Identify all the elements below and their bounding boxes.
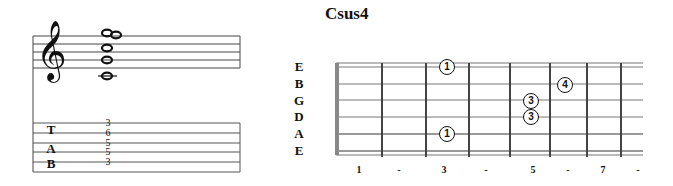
string-label-low-e: E <box>292 144 306 157</box>
chord-title: Csus4 <box>325 4 368 24</box>
chord-diagram-graphics <box>0 0 673 186</box>
finger-dot-b-fret6: 4 <box>557 77 573 93</box>
tab-letter-b: B <box>44 157 58 170</box>
tab-letter-a: A <box>44 142 58 155</box>
string-label-g: G <box>292 94 306 107</box>
finger-dot-g-fret5: 3 <box>523 93 539 109</box>
string-label-b: B <box>292 77 306 90</box>
tab-letter-t: T <box>44 123 58 136</box>
string-label-high-e: E <box>292 60 306 73</box>
finger-dot-e-fret3: 1 <box>439 59 455 75</box>
string-label-d: D <box>292 110 306 123</box>
fret-marker: 3 <box>434 164 454 175</box>
tab-staff <box>33 123 240 172</box>
fret-marker: - <box>476 164 496 175</box>
fret-marker: - <box>628 164 648 175</box>
finger-dot-a-fret3: 1 <box>439 126 455 142</box>
fret-marker: - <box>389 164 409 175</box>
fret-marker: - <box>558 164 578 175</box>
fret-marker: 7 <box>593 164 613 175</box>
tab-number: 3 <box>103 157 113 167</box>
fret-marker: 5 <box>523 164 543 175</box>
string-label-a: A <box>292 127 306 140</box>
finger-dot-d-fret5: 3 <box>523 109 539 125</box>
chord-notes <box>102 30 121 80</box>
fretboard <box>335 63 643 157</box>
treble-clef-icon: 𝄞 <box>36 20 67 80</box>
fret-marker: 1 <box>349 164 369 175</box>
